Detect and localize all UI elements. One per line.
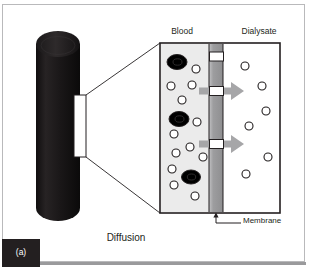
membrane-pore-1 bbox=[210, 52, 224, 61]
panel-label-badge: (a) bbox=[2, 239, 40, 267]
membrane-pointer bbox=[213, 213, 241, 224]
figure-caption: Diffusion bbox=[78, 232, 174, 243]
label-membrane: Membrane bbox=[243, 216, 281, 225]
membrane-strip bbox=[209, 44, 223, 212]
panel-label-text: (a) bbox=[2, 247, 40, 257]
dialyzer-cylinder bbox=[36, 31, 80, 221]
callout-leader-lines bbox=[86, 43, 160, 213]
membrane-pore-3 bbox=[210, 140, 224, 149]
callout-window bbox=[74, 95, 86, 157]
figure-panel-a: Blood Dialysate Membrane Diffusion (a) bbox=[0, 0, 309, 270]
label-dialysate: Dialysate bbox=[230, 26, 288, 36]
label-blood: Blood bbox=[157, 26, 207, 36]
diffusion-diagram bbox=[0, 0, 309, 270]
membrane-pore-2 bbox=[210, 87, 224, 96]
